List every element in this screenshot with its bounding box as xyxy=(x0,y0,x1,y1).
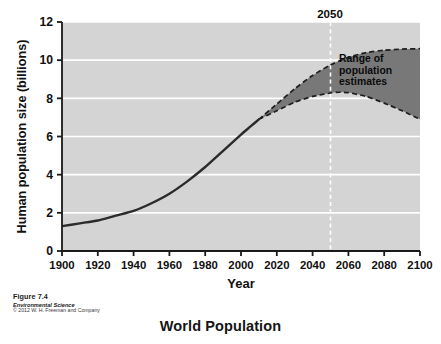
figure-root: 024681012 190019201940196019802000202020… xyxy=(0,0,441,344)
y-tick-label: 10 xyxy=(39,53,53,67)
chart-bottom-title: World Population xyxy=(0,318,441,334)
y-tick-label: 0 xyxy=(46,244,53,258)
x-tick-label: 1940 xyxy=(121,259,146,271)
x-tick-label: 2040 xyxy=(300,259,325,271)
x-tick-label: 1980 xyxy=(193,259,218,271)
x-tick-label: 1900 xyxy=(49,259,74,271)
range-legend-line-1: Range of xyxy=(339,53,384,64)
x-tick-label: 2000 xyxy=(228,259,253,271)
figure-caption: Figure 7.4 Environmental Science © 2012 … xyxy=(13,293,100,314)
caption-figure-number: Figure 7.4 xyxy=(13,293,100,301)
x-tick-label: 2060 xyxy=(336,259,361,271)
range-legend-line-2: population xyxy=(339,65,392,76)
x-tick-label: 1920 xyxy=(85,259,110,271)
y-tick-label: 2 xyxy=(46,206,53,220)
y-axis-title: Human population size (billions) xyxy=(15,40,29,234)
x-tick-label: 2020 xyxy=(264,259,289,271)
y-tick-labels: 024681012 xyxy=(39,15,53,258)
x-tick-labels: 1900192019401960198020002020204020602080… xyxy=(49,259,432,271)
x-tick-label: 1960 xyxy=(157,259,182,271)
caption-copyright: © 2012 W. H. Freeman and Company xyxy=(13,308,100,314)
x-axis-title: Year xyxy=(227,276,254,291)
x-tick-label: 2080 xyxy=(372,259,397,271)
y-tick-label: 12 xyxy=(39,15,53,29)
marker-2050-label: 2050 xyxy=(317,8,343,20)
range-legend-line-3: estimates xyxy=(339,76,387,87)
y-tick-label: 6 xyxy=(46,130,53,144)
x-tick-label: 2100 xyxy=(407,259,432,271)
y-tick-label: 4 xyxy=(46,168,53,182)
y-tick-label: 8 xyxy=(46,92,53,106)
